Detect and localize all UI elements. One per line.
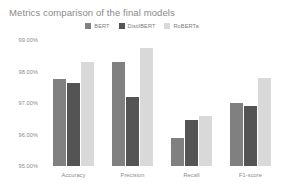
bar-roberta-f1-score[interactable]: [258, 78, 271, 166]
bar-bert-accuracy[interactable]: [53, 79, 66, 166]
plot-area: 99.00%98.00%97.00%96.00%95.00% AccuracyP…: [44, 40, 280, 166]
bar-group-f1-score: F1-score: [221, 40, 280, 166]
bar-bert-precision[interactable]: [112, 62, 125, 166]
bar-roberta-accuracy[interactable]: [81, 62, 94, 166]
bar-distilbert-recall[interactable]: [185, 120, 198, 166]
legend-label: BERT: [94, 23, 109, 29]
bar-roberta-precision[interactable]: [140, 48, 153, 166]
bar-bert-f1-score[interactable]: [230, 103, 243, 166]
legend-swatch-icon: [119, 23, 125, 29]
bar-distilbert-accuracy[interactable]: [67, 83, 80, 166]
y-axis-tick-label: 96.00%: [18, 132, 38, 138]
bars: [103, 40, 162, 166]
bar-chart: Metrics comparison of the final models B…: [0, 0, 284, 184]
bars: [221, 40, 280, 166]
bar-distilbert-precision[interactable]: [126, 97, 139, 166]
y-axis-tick-label: 95.00%: [18, 163, 38, 169]
legend-label: DistilBERT: [128, 23, 156, 29]
bar-group-accuracy: Accuracy: [44, 40, 103, 166]
legend-item-roberta[interactable]: RoBERTa: [164, 23, 198, 29]
chart-title: Metrics comparison of the final models: [9, 7, 175, 18]
legend-swatch-icon: [85, 23, 91, 29]
x-axis-tick-label: Accuracy: [44, 172, 103, 178]
legend-label: RoBERTa: [173, 23, 198, 29]
bar-groups: AccuracyPrecisionRecallF1-score: [44, 40, 280, 166]
y-axis-tick-label: 99.00%: [18, 37, 38, 43]
y-axis-tick-label: 97.00%: [18, 100, 38, 106]
x-axis-tick-label: Recall: [162, 172, 221, 178]
legend-item-bert[interactable]: BERT: [85, 23, 109, 29]
bar-group-precision: Precision: [103, 40, 162, 166]
x-axis-tick-label: F1-score: [221, 172, 280, 178]
legend-swatch-icon: [164, 23, 170, 29]
bar-bert-recall[interactable]: [171, 138, 184, 166]
x-axis-tick-label: Precision: [103, 172, 162, 178]
bars: [162, 40, 221, 166]
bars: [44, 40, 103, 166]
y-axis-tick-label: 98.00%: [18, 69, 38, 75]
bar-group-recall: Recall: [162, 40, 221, 166]
legend-item-distilbert[interactable]: DistilBERT: [119, 23, 156, 29]
bar-distilbert-f1-score[interactable]: [244, 106, 257, 166]
bar-roberta-recall[interactable]: [199, 116, 212, 166]
chart-legend: BERTDistilBERTRoBERTa: [0, 23, 284, 29]
